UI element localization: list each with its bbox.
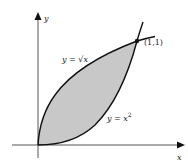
plot-figure <box>0 0 188 166</box>
x-axis-label: x <box>177 154 182 162</box>
square-curve-label: y = x2 <box>107 112 132 123</box>
intersection-point-marker <box>135 39 139 43</box>
x-axis-arrow-icon <box>177 142 185 149</box>
square-curve-label-exponent: 2 <box>128 111 132 118</box>
square-curve-label-base: y = x <box>107 114 128 123</box>
sqrt-curve-label: y = √x <box>62 56 88 64</box>
intersection-point-label: (1,1) <box>144 39 163 47</box>
y-axis-arrow-icon <box>35 12 42 20</box>
y-axis-label: y <box>44 15 49 23</box>
